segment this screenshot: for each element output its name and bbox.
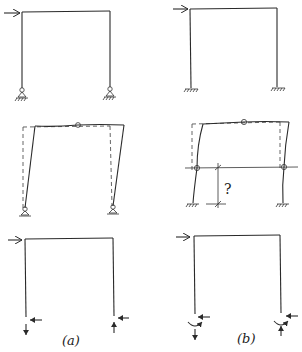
frame-b-reactions: (b) (176, 235, 298, 346)
pin-support-icon (19, 207, 31, 216)
fixed-support-icon (271, 88, 285, 91)
frame-b-deflected: ? (185, 119, 298, 208)
pin-support-icon (15, 88, 28, 101)
portal-frame-diagram: ? (a) (b) (0, 0, 302, 352)
moment-reaction-icon (274, 321, 288, 325)
frame-b-loaded (173, 8, 285, 92)
frame-a-reactions: (a) (8, 238, 129, 348)
fixed-support-icon (186, 204, 199, 207)
label-a: (a) (62, 333, 80, 348)
label-b: (b) (237, 331, 255, 346)
fixed-support-icon (276, 204, 289, 207)
inflection-height-query: ? (224, 181, 232, 197)
frame-a-loaded (4, 11, 116, 101)
moment-reaction-icon (188, 322, 202, 326)
frame-a-deflected (19, 123, 124, 216)
pin-support-icon (103, 87, 116, 100)
fixed-support-icon (184, 89, 198, 92)
pin-support-icon (107, 205, 119, 214)
